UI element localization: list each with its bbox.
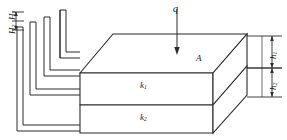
label-head-H2: H2 — [8, 25, 18, 34]
piezometer-tube-4 — [60, 10, 80, 58]
piezometer-tube-3 — [44, 17, 80, 76]
flow-arrow-q — [174, 9, 179, 55]
label-thickness-h1: h1 — [269, 52, 279, 59]
label-area-A: A — [196, 54, 202, 63]
label-head-H1: H1 — [8, 11, 18, 20]
label-permeability-k1: k1 — [140, 81, 147, 91]
label-thickness-h2: h2 — [269, 83, 279, 90]
label-flow-q: q — [173, 4, 178, 14]
label-permeability-k2: k2 — [140, 113, 147, 123]
piezometer-tube-1 — [17, 27, 80, 131]
figure-container: q A k1 k2 H2 H1 h1 h2 — [0, 0, 287, 140]
